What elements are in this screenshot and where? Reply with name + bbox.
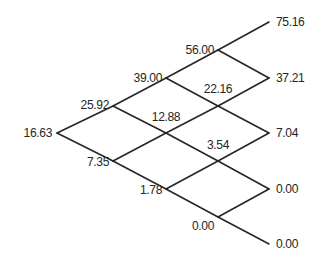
node-value-n4_0: 75.16: [276, 15, 304, 28]
node-value-n4_3: 0.00: [276, 182, 298, 195]
tree-edge-n2_2-to-n3_2: [166, 161, 218, 189]
node-value-n4_1: 37.21: [276, 71, 304, 84]
node-value-n4_4: 0.00: [276, 237, 298, 250]
node-value-n3_3: 0.00: [15, 219, 214, 232]
node-value-n2_1: 12.88: [129, 110, 203, 123]
tree-edge-n3_3-to-n4_3: [218, 189, 269, 217]
tree-edge-n1_1-to-n2_1: [113, 133, 166, 161]
node-value-n4_2: 7.04: [276, 126, 298, 139]
node-value-n3_2: 3.54: [181, 138, 255, 151]
tree-edge-n2_2-to-n3_3: [166, 189, 218, 217]
node-value-n2_2: 1.78: [11, 183, 162, 196]
node-value-n2_0: 39.00: [11, 71, 162, 84]
tree-edge-n3_2-to-n4_3: [218, 161, 269, 189]
node-value-n1_0: 25.92: [8, 98, 109, 111]
node-value-n3_1: 22.16: [181, 82, 255, 95]
node-value-n0_0: 16.63: [4, 126, 52, 139]
node-value-n3_0: 56.00: [15, 43, 214, 56]
node-value-n1_1: 7.35: [8, 155, 109, 168]
tree-edge-n3_0-to-n4_1: [218, 50, 269, 78]
tree-edge-n3_3-to-n4_4: [218, 217, 269, 244]
tree-edge-n3_0-to-n4_0: [218, 22, 269, 50]
binomial-tree-diagram: 16.6325.927.3539.0012.881.7856.0022.163.…: [0, 0, 327, 262]
tree-edge-n3_1-to-n4_2: [218, 106, 269, 133]
